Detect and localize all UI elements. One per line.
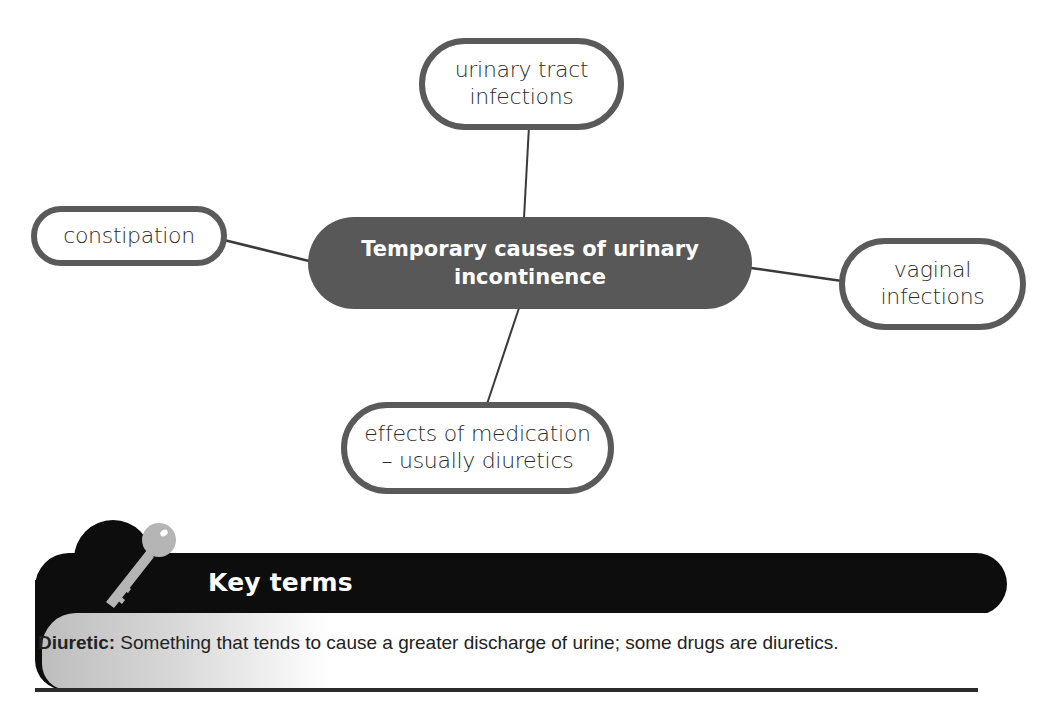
central-topic-line: incontinence [361, 263, 699, 291]
key-terms-panel: Key terms Diuretic: Something that tends… [30, 520, 1020, 700]
branch-label-line: infections [880, 284, 984, 311]
connector-right [751, 268, 842, 281]
key-icon [68, 520, 188, 610]
key-terms-bottom-rule [35, 688, 978, 692]
connector-left [224, 240, 309, 261]
central-topic: Temporary causes of urinary incontinence [308, 217, 752, 309]
branch-label-line: infections [455, 84, 589, 111]
branch-label-line: – usually diuretics [364, 448, 590, 475]
connector-top [524, 126, 529, 218]
branch-effects-of-medication: effects of medication – usually diuretic… [341, 402, 614, 494]
key-term-definition: Diuretic: Something that tends to cause … [38, 632, 839, 654]
key-term-meaning: Something that tends to cause a greater … [115, 632, 838, 653]
key-term-word: Diuretic: [38, 632, 115, 653]
branch-label-line: effects of medication [364, 421, 590, 448]
connector-bottom [486, 308, 519, 407]
branch-urinary-tract-infections: urinary tract infections [419, 38, 624, 130]
branch-constipation: constipation [31, 206, 227, 266]
central-topic-line: Temporary causes of urinary [361, 235, 699, 263]
branch-label-line: vaginal [880, 257, 984, 284]
branch-vaginal-infections: vaginal infections [839, 238, 1026, 330]
key-terms-title: Key terms [208, 568, 353, 597]
branch-label: constipation [63, 223, 195, 250]
branch-label-line: urinary tract [455, 57, 589, 84]
